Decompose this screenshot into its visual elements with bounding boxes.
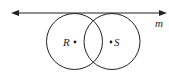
line-label-m: m — [155, 17, 163, 29]
right-arrowhead-icon — [159, 10, 167, 16]
point-label-s: S — [114, 36, 120, 48]
geometry-diagram: m R S — [0, 0, 169, 74]
center-point-r — [74, 41, 77, 44]
left-arrowhead-icon — [11, 10, 19, 16]
line-m — [11, 10, 167, 16]
point-label-r: R — [62, 36, 70, 48]
center-point-s — [110, 41, 113, 44]
